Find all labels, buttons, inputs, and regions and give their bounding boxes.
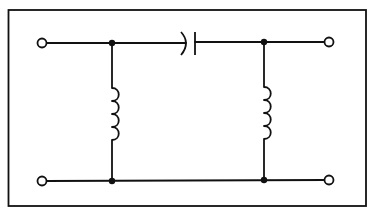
terminal-out-bottom [325,176,334,185]
inductor-l2-branch [264,42,271,180]
inductor-l1-branch [112,43,119,181]
bottom-rail-wire [46,180,325,181]
junction-top-right [261,39,267,45]
junction-bottom-right [261,177,267,183]
junction-top-left [109,40,115,46]
inductor-l2-icon [264,87,271,139]
terminal-out-top [325,38,334,47]
junction-bottom-left [109,178,115,184]
terminal-in-bottom [38,177,47,186]
inductor-l1-icon [112,88,119,140]
circuit-diagram [0,0,373,213]
diagram-frame [9,10,367,206]
terminal-in-top [38,39,47,48]
